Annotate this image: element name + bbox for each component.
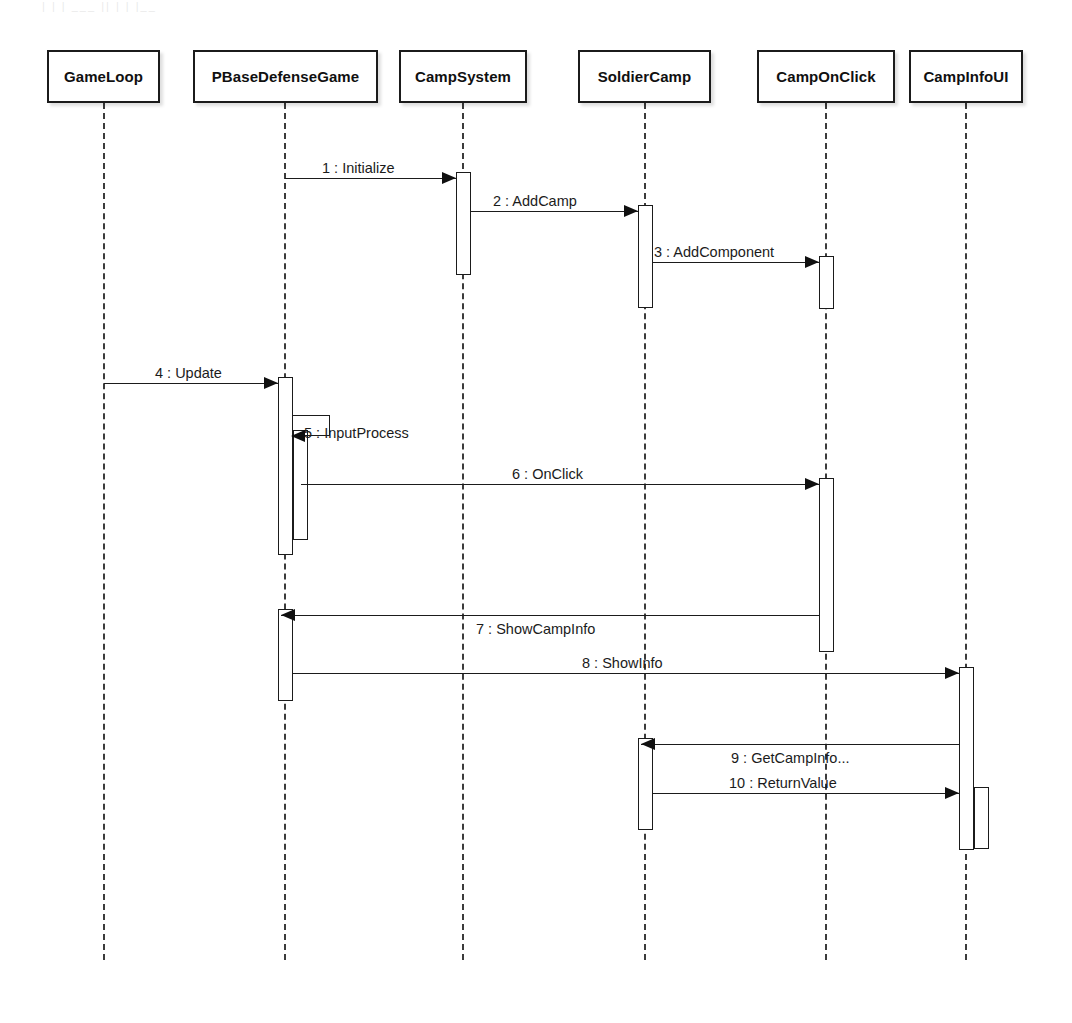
message-arrowhead-7 [281,609,295,621]
message-arrowhead-6 [805,478,819,490]
activation-bar-pbasedefensegame[interactable] [278,609,293,701]
message-line-6[interactable] [301,484,819,485]
message-label-9: 9 : GetCampInfo... [731,750,849,766]
activation-bar-soldiercamp[interactable] [638,205,653,308]
activation-bar-pbasedefensegame[interactable] [293,430,308,540]
activation-bar-camponclick[interactable] [819,256,834,309]
message-arrowhead-4 [264,377,278,389]
activation-bar-campsystem[interactable] [456,172,471,275]
participant-pbasedefensegame[interactable]: PBaseDefenseGame [193,50,378,103]
message-line-4[interactable] [104,383,278,384]
message-line-9[interactable] [641,744,959,745]
message-label-6: 6 : OnClick [512,466,583,482]
activation-bar-campinfoui[interactable] [959,667,974,850]
message-label-4: 4 : Update [155,365,222,381]
message-line-1[interactable] [285,178,456,179]
message-label-7: 7 : ShowCampInfo [476,621,595,637]
activation-bar-pbasedefensegame[interactable] [278,377,293,555]
activation-bar-campinfoui[interactable] [974,787,989,849]
message-label-8: 8 : ShowInfo [582,655,663,671]
participant-label: GameLoop [64,68,143,85]
lifeline-gameloop [103,103,105,960]
message-arrowhead-2 [624,205,638,217]
message-label-5: 5 : InputProcess [304,425,409,441]
message-line-2[interactable] [471,211,638,212]
message-label-2: 2 : AddCamp [493,193,577,209]
message-line-8[interactable] [293,673,959,674]
sequence-diagram-canvas: | | | ___ || | | |__ GameLoopPBaseDefens… [0,0,1072,1023]
message-label-1: 1 : Initialize [322,160,395,176]
message-arrowhead-1 [442,172,456,184]
activation-bar-camponclick[interactable] [819,478,834,652]
message-label-3: 3 : AddComponent [654,244,774,260]
participant-label: CampOnClick [776,68,875,85]
participant-label: PBaseDefenseGame [212,68,360,85]
participant-label: CampInfoUI [923,68,1008,85]
message-line-7[interactable] [281,615,819,616]
message-arrowhead-10 [945,787,959,799]
scan-artifact-text: | | | ___ || | | |__ [42,0,242,14]
message-arrowhead-8 [945,667,959,679]
activation-bar-soldiercamp[interactable] [638,738,653,830]
participant-campsystem[interactable]: CampSystem [399,50,527,103]
message-line-10[interactable] [653,793,959,794]
participant-camponclick[interactable]: CampOnClick [757,50,895,103]
message-label-10: 10 : ReturnValue [729,775,837,791]
participant-campinfoui[interactable]: CampInfoUI [909,50,1023,103]
participant-gameloop[interactable]: GameLoop [47,50,160,103]
message-arrowhead-9 [641,738,655,750]
participant-label: CampSystem [415,68,511,85]
message-line-3[interactable] [653,262,819,263]
participant-label: SoldierCamp [598,68,692,85]
participant-soldiercamp[interactable]: SoldierCamp [578,50,711,103]
message-arrowhead-5 [291,430,305,442]
message-arrowhead-3 [805,256,819,268]
